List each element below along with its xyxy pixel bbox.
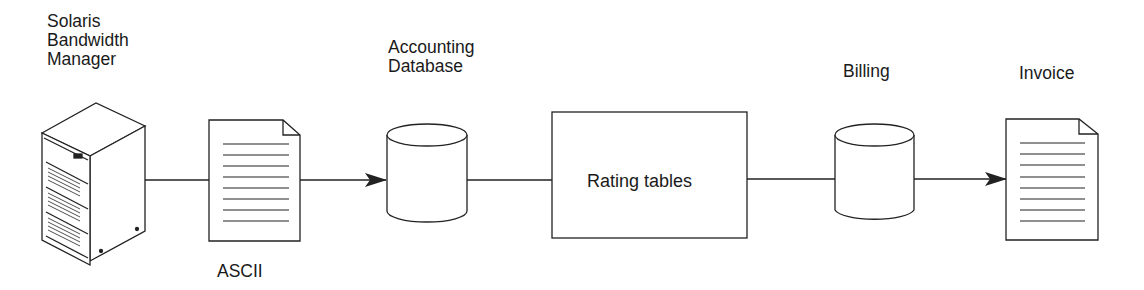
- ascii-document-icon: [209, 120, 300, 241]
- billing-database-icon: [835, 124, 914, 219]
- diagram-canvas: [0, 0, 1144, 290]
- invoice-document-icon: [1006, 119, 1098, 240]
- server-icon: [42, 103, 145, 265]
- accounting-database-icon: [387, 124, 467, 222]
- rating-tables-label: Rating tables: [587, 172, 692, 191]
